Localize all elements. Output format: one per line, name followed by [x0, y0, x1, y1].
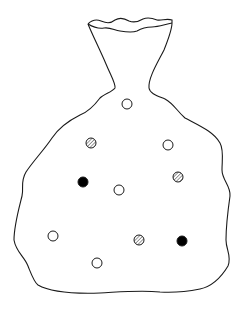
open-circle-icon [163, 140, 173, 150]
open-circle-icon [114, 185, 124, 195]
vessel-rim-top [88, 18, 172, 24]
particle-group [48, 99, 187, 268]
open-circle-icon [92, 258, 102, 268]
open-circle-icon [122, 99, 132, 109]
vessel-diagram [0, 0, 245, 314]
hatched-circle-icon [86, 138, 96, 148]
open-circle-icon [48, 231, 58, 241]
filled-circle-icon [78, 177, 88, 187]
filled-circle-icon [177, 236, 187, 246]
hatched-circle-icon [134, 235, 144, 245]
hatched-circle-icon [173, 172, 183, 182]
vessel-rim-bottom [88, 23, 172, 32]
vessel-outline [14, 23, 230, 293]
